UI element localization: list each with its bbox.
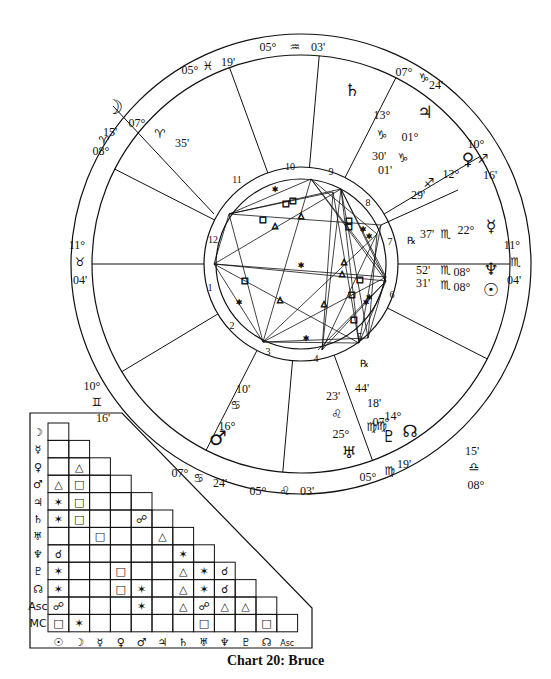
aspect-symbol-icon: △: [179, 600, 188, 613]
row-label-icon: ☊: [33, 583, 43, 596]
aspect-cell: [110, 614, 131, 631]
aspect-symbol-icon: ✶: [137, 600, 146, 613]
aspect-cell: [173, 527, 194, 544]
aspect-symbol-icon: △: [221, 600, 230, 613]
aspect-symbol-icon: □: [74, 496, 84, 509]
aspect-cell: [110, 510, 131, 527]
row-label-icon: ♆: [33, 548, 43, 561]
row-label-icon: ♄: [33, 513, 43, 526]
aspect-cell: [110, 527, 131, 544]
aspect-cell: [152, 545, 173, 562]
aspect-cell: [48, 423, 69, 440]
aspect-cell: [90, 562, 111, 579]
aspect-symbol-icon: ☍: [136, 513, 147, 526]
aspect-cell: [90, 510, 111, 527]
aspect-cell: [277, 614, 298, 631]
col-label-icon: ☿: [97, 636, 104, 649]
aspect-cell: [90, 458, 111, 475]
aspect-cell: [110, 545, 131, 562]
aspect-cell: [214, 614, 235, 631]
aspect-symbol-icon: □: [74, 478, 84, 491]
row-label-icon: MC: [29, 617, 46, 630]
aspect-symbol-icon: △: [75, 461, 84, 474]
aspect-cell: [69, 440, 90, 457]
aspect-cell: [90, 545, 111, 562]
row-label-icon: ♅: [33, 530, 43, 543]
aspect-cell: [110, 493, 131, 510]
aspect-cell: [131, 614, 152, 631]
aspect-cell: [69, 527, 90, 544]
row-label-icon: ♃: [33, 496, 43, 509]
aspect-symbol-icon: ☌: [55, 548, 62, 561]
aspect-symbol-icon: △: [241, 600, 250, 613]
aspect-symbol-icon: □: [53, 617, 63, 630]
aspect-symbol-icon: ✶: [54, 583, 63, 596]
col-label-icon: ♂: [137, 636, 147, 649]
col-label-icon: ☽: [74, 636, 84, 649]
aspect-symbol-icon: ✶: [179, 548, 188, 561]
aspect-cell: [90, 493, 111, 510]
aspect-cell: [131, 545, 152, 562]
chart-caption: Chart 20: Bruce: [0, 653, 551, 669]
aspect-grid-frame: [30, 413, 312, 648]
aspect-symbol-icon: ✶: [54, 496, 63, 509]
aspect-symbol-icon: ✶: [137, 583, 146, 596]
aspect-grid: ☽☿♀△♂△□♃✶□♄✶□☍♅□△♆☌✶♇✶□△✶☌☊✶□✶△✶☌Asc☍✶△☍…: [0, 0, 551, 679]
aspect-cell: [173, 614, 194, 631]
col-label-icon: ♅: [199, 636, 209, 649]
aspect-cell: [152, 562, 173, 579]
aspect-cell: [152, 614, 173, 631]
col-label-icon: Asc: [280, 639, 294, 648]
col-label-icon: ☉: [53, 636, 63, 649]
aspect-cell: [48, 440, 69, 457]
row-label-icon: ♀: [34, 461, 42, 474]
aspect-symbol-icon: □: [261, 617, 271, 630]
aspect-cell: [69, 562, 90, 579]
aspect-symbol-icon: □: [74, 513, 84, 526]
col-label-icon: ♄: [178, 636, 188, 649]
aspect-cell: [110, 597, 131, 614]
aspect-cell: [235, 580, 256, 597]
row-label-icon: ♂: [33, 478, 43, 491]
aspect-symbol-icon: ✶: [54, 565, 63, 578]
aspect-cell: [48, 458, 69, 475]
aspect-symbol-icon: ☍: [198, 600, 209, 613]
row-label-icon: ♇: [33, 565, 43, 578]
aspect-symbol-icon: ✶: [54, 513, 63, 526]
aspect-cell: [90, 475, 111, 492]
aspect-symbol-icon: □: [199, 617, 209, 630]
aspect-cell: [69, 597, 90, 614]
row-label-icon: Asc: [28, 600, 47, 613]
col-label-icon: ♀: [117, 636, 125, 649]
aspect-cell: [131, 493, 152, 510]
col-label-icon: ♇: [241, 636, 251, 649]
aspect-cell: [152, 597, 173, 614]
aspect-cell: [69, 545, 90, 562]
aspect-cell: [152, 580, 173, 597]
aspect-symbol-icon: △: [179, 583, 188, 596]
aspect-cell: [256, 597, 277, 614]
aspect-cell: [90, 580, 111, 597]
aspect-symbol-icon: △: [54, 478, 63, 491]
col-label-icon: ☊: [262, 636, 272, 649]
row-label-icon: ☽: [33, 426, 43, 439]
aspect-cell: [131, 527, 152, 544]
aspect-symbol-icon: □: [116, 565, 126, 578]
aspect-symbol-icon: ✶: [199, 583, 208, 596]
aspect-symbol-icon: □: [95, 530, 105, 543]
col-label-icon: ♆: [220, 636, 230, 649]
aspect-cell: [110, 475, 131, 492]
aspect-cell: [90, 597, 111, 614]
aspect-symbol-icon: ✶: [75, 617, 84, 630]
aspect-symbol-icon: △: [158, 530, 167, 543]
aspect-symbol-icon: ☌: [221, 565, 228, 578]
aspect-cell: [131, 562, 152, 579]
row-label-icon: ☿: [35, 443, 42, 456]
aspect-cell: [48, 527, 69, 544]
aspect-symbol-icon: ☍: [53, 600, 64, 613]
aspect-symbol-icon: ☌: [221, 583, 228, 596]
aspect-symbol-icon: □: [116, 583, 126, 596]
col-label-icon: ♃: [157, 636, 167, 649]
aspect-cell: [90, 614, 111, 631]
aspect-symbol-icon: ✶: [199, 565, 208, 578]
